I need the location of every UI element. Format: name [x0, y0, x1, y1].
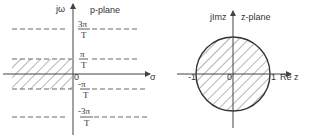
tick-label-minus-1: -1: [188, 72, 196, 82]
label-pi-over-T: π T: [79, 49, 88, 70]
z-plane-origin-label: 0: [227, 72, 232, 82]
label-3pi-over-T: 3π T: [78, 19, 90, 40]
label-minus-3pi-over-T: -3π T: [78, 106, 93, 128]
imag-axis-label: jImz: [209, 12, 227, 22]
svg-text:T: T: [83, 90, 89, 100]
p-plane: jω p-plane σ 0 3π T π T -π T -3π T: [3, 4, 156, 135]
svg-text:T: T: [81, 60, 87, 70]
svg-text:3π: 3π: [78, 19, 88, 29]
label-minus-pi-over-T: -π T: [78, 79, 90, 100]
p-plane-title: p-plane: [90, 5, 120, 15]
z-plane: jImz z-plane -1 0 1 Re z: [177, 11, 299, 128]
tick-label-1: 1: [271, 72, 276, 82]
svg-text:T: T: [84, 118, 90, 128]
diagram-canvas: jω p-plane σ 0 3π T π T -π T -3π T: [0, 0, 318, 139]
z-plane-shaded-disk: [190, 30, 280, 120]
svg-text:-π: -π: [78, 79, 86, 89]
svg-text:T: T: [81, 30, 87, 40]
svg-text:π: π: [80, 49, 85, 59]
svg-text:-3π: -3π: [78, 106, 90, 116]
z-plane-title: z-plane: [241, 12, 271, 22]
jomega-axis-label: jω: [55, 4, 65, 14]
sigma-axis-label: σ: [150, 72, 156, 82]
real-axis-label: Re z: [280, 72, 299, 82]
